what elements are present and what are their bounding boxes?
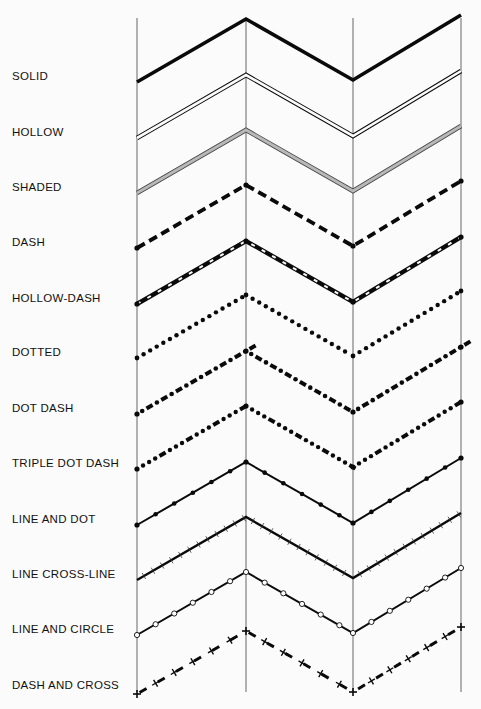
line-sample-dash bbox=[134, 178, 463, 250]
row-label-line-cross-line: LINE CROSS-LINE bbox=[12, 568, 116, 580]
line-sample-triple-dot-dash bbox=[134, 399, 463, 471]
line-sample-line-cross-line bbox=[137, 511, 461, 580]
row-label-dot-dash: DOT DASH bbox=[12, 402, 74, 414]
line-sample-dotted bbox=[135, 289, 464, 361]
row-label-hollow-dash: HOLLOW-DASH bbox=[12, 292, 101, 304]
row-label-dotted: DOTTED bbox=[12, 346, 61, 358]
line-sample-line-and-circle bbox=[134, 565, 463, 637]
line-sample-hollow-dash bbox=[134, 234, 463, 306]
row-label-hollow: HOLLOW bbox=[12, 126, 64, 138]
line-sample-shaded bbox=[137, 126, 461, 193]
line-sample-solid bbox=[137, 15, 461, 82]
vertical-guides bbox=[137, 18, 461, 692]
line-style-chart: SOLIDHOLLOWSHADEDDASHHOLLOW-DASHDOTTEDDO… bbox=[0, 0, 481, 709]
row-label-solid: SOLID bbox=[12, 70, 48, 82]
row-labels: SOLIDHOLLOWSHADEDDASHHOLLOW-DASHDOTTEDDO… bbox=[12, 70, 119, 691]
row-label-line-and-circle: LINE AND CIRCLE bbox=[12, 623, 114, 635]
line-sample-dot-dash bbox=[134, 341, 470, 416]
row-label-dash: DASH bbox=[12, 236, 45, 248]
line-sample-dash-and-cross bbox=[133, 623, 465, 698]
row-label-line-and-dot: LINE AND DOT bbox=[12, 513, 95, 525]
row-label-dash-and-cross: DASH AND CROSS bbox=[12, 679, 119, 691]
row-label-triple-dot-dash: TRIPLE DOT DASH bbox=[12, 457, 119, 469]
row-label-shaded: SHADED bbox=[12, 181, 62, 193]
line-sample-hollow bbox=[137, 71, 461, 138]
line-samples bbox=[133, 15, 470, 698]
line-sample-line-and-dot bbox=[134, 455, 463, 527]
